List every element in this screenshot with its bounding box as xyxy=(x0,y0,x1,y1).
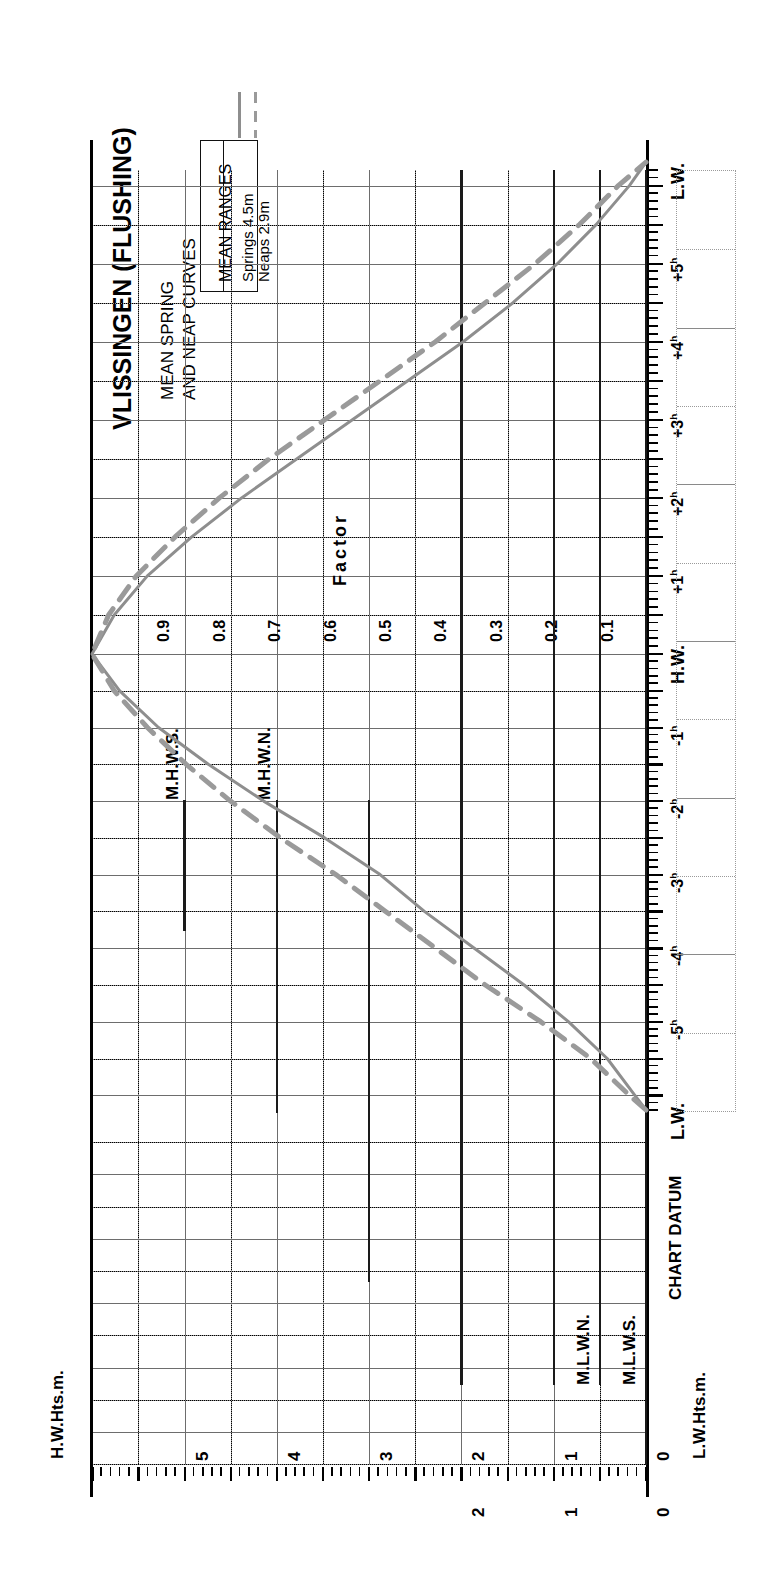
tidal-curves xyxy=(0,0,759,1580)
tide-time-entry-cell[interactable] xyxy=(677,1033,735,1034)
tide-time-entry-cell[interactable] xyxy=(677,406,735,407)
tide-time-entry-cell[interactable] xyxy=(677,328,735,329)
tide-time-entry-column[interactable] xyxy=(676,170,736,1112)
springs-curve xyxy=(92,162,646,1110)
tide-time-entry-cell[interactable] xyxy=(677,876,735,877)
tide-time-entry-cell[interactable] xyxy=(677,798,735,799)
tide-time-entry-cell[interactable] xyxy=(677,954,735,955)
tide-time-entry-cell[interactable] xyxy=(677,484,735,485)
tidal-curve-sheet: VLISSINGEN (FLUSHING)MEAN SPRINGAND NEAP… xyxy=(0,0,759,1580)
tide-time-entry-cell[interactable] xyxy=(677,249,735,250)
tide-time-entry-cell[interactable] xyxy=(677,719,735,720)
tide-time-entry-cell[interactable] xyxy=(677,563,735,564)
tide-time-entry-cell[interactable] xyxy=(677,641,735,642)
neaps-curve xyxy=(92,162,646,1110)
